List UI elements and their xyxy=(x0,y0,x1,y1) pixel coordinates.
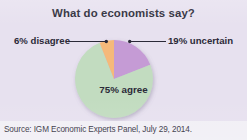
pie-chart-figure: What do economists say? xyxy=(0,0,247,140)
slice-label-uncertain: 19% uncertain xyxy=(168,35,233,46)
page-title: What do economists say? xyxy=(0,7,247,20)
leader-line-uncertain xyxy=(128,40,166,43)
pie-slices-group xyxy=(75,40,153,118)
slice-label-disagree: 6% disagree xyxy=(14,35,70,46)
leader-dot-uncertain xyxy=(128,40,131,43)
slice-label-agree: 75% agree xyxy=(0,84,247,95)
leader-dot-disagree xyxy=(105,40,108,43)
source-note: Source: IGM Economic Experts Panel, July… xyxy=(4,125,192,134)
